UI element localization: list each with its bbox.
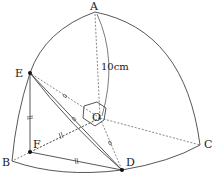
segment-F-D [30, 152, 122, 170]
mark-OD [108, 141, 112, 146]
tick-EF-2 [27, 118, 33, 119]
segment-O-E [30, 73, 100, 118]
segment-E-D-1 [30, 73, 122, 170]
tick-FO-2 [61, 132, 63, 138]
tick-FD-2 [77, 158, 78, 164]
label-O: O [92, 112, 101, 123]
label-C: C [204, 139, 212, 150]
point-F [28, 150, 32, 154]
tick-EF-1 [27, 116, 33, 117]
label-E: E [15, 68, 23, 79]
point-E [28, 71, 32, 75]
tick-FO-1 [59, 133, 61, 139]
tick-FD-1 [75, 158, 76, 164]
label-F: F [33, 139, 41, 150]
segment-O-D [100, 118, 122, 170]
label-A: A [90, 1, 98, 12]
label-B: B [2, 157, 10, 168]
mark-OE [63, 94, 68, 98]
arc-A-C [95, 12, 200, 145]
axis-O-C [100, 118, 200, 145]
label-radius: 10cm [101, 62, 129, 72]
point-D [120, 168, 124, 172]
arc-A-E-B [12, 12, 95, 161]
label-D: D [126, 157, 135, 168]
